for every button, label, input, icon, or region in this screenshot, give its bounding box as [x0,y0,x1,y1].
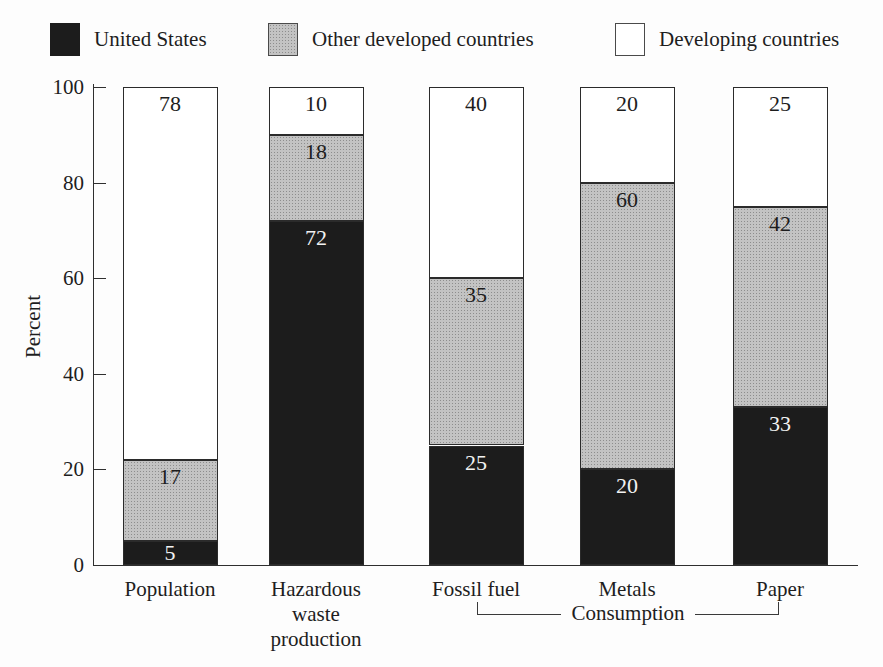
legend-swatch-other [268,23,298,56]
category-label: Hazardous waste production [254,577,378,652]
bar-segment-dev [123,87,218,460]
bar-segment-other [733,207,828,408]
legend-label: United States [94,27,207,52]
x-axis-line [93,565,858,566]
y-axis-line [93,84,94,566]
legend-item: United States [50,22,207,56]
legend-label: Developing countries [659,27,839,52]
legend-label: Other developed countries [312,27,534,52]
y-tick-label: 20 [38,458,84,480]
y-tick-label: 0 [38,554,84,576]
segment-value-label: 42 [733,212,828,236]
category-label: Population [108,577,232,602]
bar-segment-us [269,221,364,565]
segment-value-label: 40 [429,92,524,116]
bar-segment-other [580,183,675,470]
segment-value-label: 25 [429,451,524,475]
category-label: Metals [565,577,689,602]
segment-value-label: 60 [580,188,675,212]
segment-value-label: 18 [269,140,364,164]
segment-value-label: 10 [269,92,364,116]
segment-value-label: 17 [123,465,218,489]
segment-value-label: 78 [123,92,218,116]
bracket-label: Consumption [561,603,694,624]
legend-swatch-dev [615,23,645,56]
y-tick-mark [93,469,106,470]
stacked-bar-chart-figure: United StatesOther developed countriesDe… [0,0,883,667]
y-tick-mark [93,374,106,375]
segment-value-label: 72 [269,226,364,250]
segment-value-label: 20 [580,92,675,116]
y-tick-label: 100 [38,76,84,98]
legend-swatch-us [50,23,80,56]
legend-item: Other developed countries [268,22,534,56]
category-label: Paper [718,577,842,602]
segment-value-label: 20 [580,474,675,498]
y-tick-label: 60 [38,267,84,289]
segment-value-label: 33 [733,412,828,436]
y-tick-label: 40 [38,363,84,385]
y-axis-title: Percent [21,282,46,372]
y-tick-label: 80 [38,172,84,194]
y-tick-mark [93,278,106,279]
y-tick-mark [93,87,106,88]
legend-item: Developing countries [615,22,839,56]
category-label: Fossil fuel [414,577,538,602]
consumption-bracket: Consumption [477,602,779,615]
segment-value-label: 35 [429,283,524,307]
segment-value-label: 25 [733,92,828,116]
bracket-right-arm [695,602,779,615]
y-tick-mark [93,183,106,184]
bracket-left-arm [477,602,561,615]
segment-value-label: 5 [123,541,218,565]
